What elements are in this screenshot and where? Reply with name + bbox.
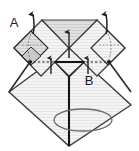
- origami-diagram-container: A B: [0, 0, 139, 151]
- label-a: A: [10, 15, 19, 30]
- fold-up-arrow-left: [33, 14, 34, 34]
- label-b: B: [85, 73, 94, 88]
- origami-diagram-svg: A B: [0, 0, 139, 151]
- fold-up-arrow-right: [106, 14, 107, 34]
